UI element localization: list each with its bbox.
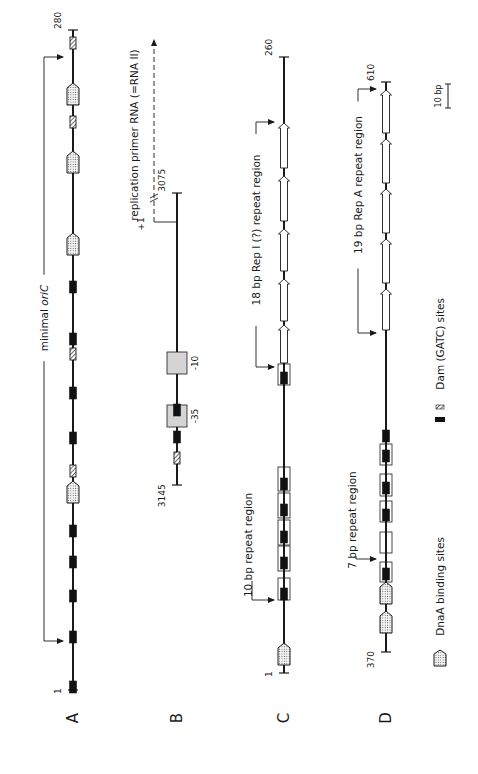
dnaA-binding-site-icon [380,611,392,633]
dnaA-binding-site-icon [67,83,79,105]
region-bracket: minimal oriC [38,57,63,641]
dam-site-icon [70,281,77,293]
plasmid-origin-figure: 2801Aminimal oriC30753145B-10-35+1replic… [0,0,478,774]
dam-site-icon [281,531,288,543]
coordinate-top: 3075 [157,169,167,192]
coordinate-bottom: 1 [264,671,274,677]
panel-D: 610370D19 bp Rep A repeat region7 bp rep… [346,64,395,724]
dam-site-icon [70,525,77,537]
dam-site-icon [383,482,390,494]
origin-diagram: 2801Aminimal oriC30753145B-10-35+1replic… [0,0,478,774]
repeat-arrow-icon [279,123,290,168]
region-label: 7 bp repeat region [346,471,358,568]
region-bracket: 10 bp repeat region [242,493,274,600]
dnaA-binding-site-icon [278,643,290,665]
panel-letter: A [64,712,82,723]
transcript-arrow: +1replication primer RNA (=RNA II) [128,40,177,231]
region-bracket: 19 bp Rep A repeat region [352,89,376,333]
dam-site-hemimethylated-icon [436,405,444,409]
dam-site-icon [70,681,77,693]
repeat-arrow-icon [381,139,392,183]
coordinate-top: 610 [366,64,376,81]
legend: DnaA binding sitesDam (GATC) sites [434,298,446,666]
coordinate-bottom: 1 [53,688,63,694]
legend-label: DnaA binding sites [434,537,446,636]
dam-site-icon [281,504,288,516]
dam-site-hemimethylated-icon [70,37,76,49]
repeat-arrow-icon [381,90,392,133]
region-label: 18 bp Rep I (?) repeat region [250,155,262,306]
dam-site-hemimethylated-icon [70,348,76,360]
region-label: 10 bp repeat region [242,493,254,597]
panel-A: 2801Aminimal oriC [38,12,82,724]
coordinate-bottom: 370 [366,651,376,668]
dam-site-icon [281,478,288,490]
region-bracket: 7 bp repeat region [346,471,376,568]
repeat-arrow-icon [381,289,392,330]
dam-site-icon [70,387,77,399]
panel-B: 30753145B-10-35+1replication primer RNA … [128,40,200,723]
dam-site-icon [435,417,445,422]
dam-site-icon [383,430,390,442]
dam-site-icon [174,404,181,416]
legend-label: Dam (GATC) sites [434,298,446,390]
coordinate-bottom: 3145 [157,484,167,507]
panel-letter: B [168,713,186,723]
dam-site-icon [281,372,288,384]
repeat-arrow-icon [279,325,290,363]
repeat-arrow-icon [279,229,290,271]
repeat-arrow-icon [381,239,392,283]
scale-bar: 10 bp [434,84,451,108]
dam-site-icon [281,588,288,600]
scale-bar-label: 10 bp [434,85,443,108]
dam-site-icon [281,557,288,569]
dam-site-icon [70,556,77,568]
dam-site-icon [383,450,390,462]
dam-site-hemimethylated-icon [70,116,76,128]
region-label: 19 bp Rep A repeat region [352,116,364,254]
dnaA-binding-site-icon [67,233,79,255]
dam-site-hemimethylated-icon [70,465,76,477]
dnaA-binding-site-icon [67,151,79,173]
dam-site-icon [174,431,181,443]
repeat-arrow-icon [279,176,290,221]
dam-site-icon [70,631,77,643]
region-bracket: 18 bp Rep I (?) repeat region [250,122,274,367]
panel-C: 2601C18 bp Rep I (?) repeat region10 bp … [242,39,293,724]
dnaA-binding-site-icon [434,650,446,666]
dam-site-icon [70,590,77,602]
transcript-label: replication primer RNA (=RNA II) [128,49,140,220]
panel-letter: C [275,713,293,723]
promoter-box [167,352,187,374]
region-label: minimal oriC [38,284,50,351]
diagram-layer: 2801Aminimal oriC30753145B-10-35+1replic… [38,12,451,724]
promoter-label: -35 [190,409,200,424]
repeat-arrow-icon [279,279,290,321]
dam-site-icon [70,432,77,444]
dnaA-binding-site-icon [67,481,79,503]
dam-site-icon [383,568,390,580]
coordinate-top: 280 [53,12,63,29]
dam-site-icon [383,509,390,521]
coordinate-top: 260 [264,39,274,56]
promoter-label: -10 [190,355,200,370]
dnaA-binding-site-icon [380,582,392,604]
panel-letter: D [377,712,395,724]
repeat-arrow-icon [381,189,392,233]
dam-site-icon [70,333,77,345]
dam-site-hemimethylated-icon [174,452,180,464]
